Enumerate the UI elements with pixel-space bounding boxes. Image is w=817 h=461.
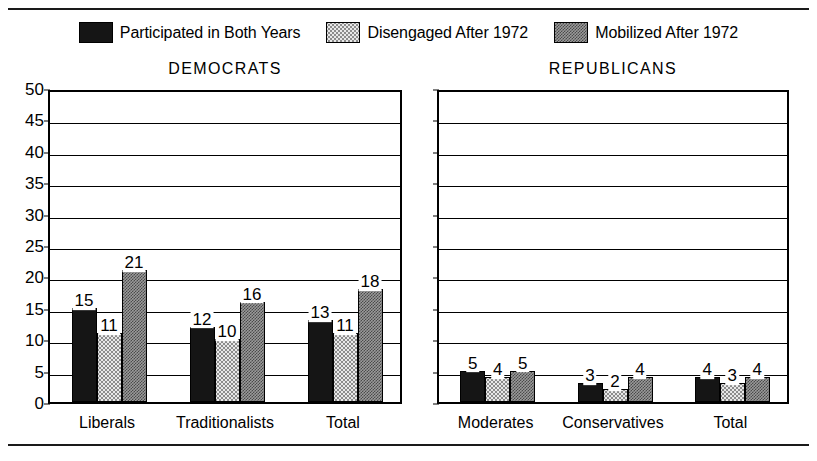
y-axis-tick-label: 20 xyxy=(10,268,44,288)
y-axis-tick-mark xyxy=(44,184,50,185)
bar xyxy=(72,308,97,402)
y-axis-tick-mark xyxy=(44,341,50,342)
y-axis-tick-label: 40 xyxy=(10,143,44,163)
bar-value-label: 12 xyxy=(191,311,214,329)
gridline xyxy=(439,218,787,219)
gridline xyxy=(50,280,400,281)
legend-swatch-mobilized xyxy=(554,22,588,43)
y-axis-tick-mark xyxy=(44,90,50,91)
y-axis-tick-mark xyxy=(433,278,439,279)
top-divider-rule xyxy=(8,8,809,10)
y-axis-tick-mark xyxy=(44,215,50,216)
bar-value-label: 10 xyxy=(216,323,239,341)
y-axis-tick-mark xyxy=(433,372,439,373)
panel-democrats: DEMOCRATS1511211210161311180510152025303… xyxy=(8,60,402,434)
bar xyxy=(628,377,653,402)
bar xyxy=(190,327,215,402)
bottom-divider-rule xyxy=(8,444,809,446)
y-axis-tick-label: 15 xyxy=(10,300,44,320)
y-axis-tick-mark xyxy=(433,404,439,405)
bar-value-label: 15 xyxy=(73,292,96,310)
bar-value-label: 18 xyxy=(359,273,382,291)
y-axis-tick-label: 0 xyxy=(10,394,44,414)
plot-area: 545324434 xyxy=(437,90,789,404)
panel-title: DEMOCRATS xyxy=(48,60,402,78)
bar-value-label: 16 xyxy=(241,286,264,304)
y-axis-tick-mark xyxy=(433,184,439,185)
x-axis-category-label: Moderates xyxy=(458,414,534,432)
y-axis-tick-label: 10 xyxy=(10,331,44,351)
y-axis-tick-mark xyxy=(44,121,50,122)
gridline xyxy=(50,218,400,219)
gridline xyxy=(439,123,787,124)
gridline xyxy=(50,186,400,187)
bar xyxy=(358,289,383,402)
y-axis-tick-mark xyxy=(44,404,50,405)
legend-item: Disengaged After 1972 xyxy=(326,22,528,43)
gridline xyxy=(439,280,787,281)
bar xyxy=(460,371,485,402)
bar xyxy=(695,377,720,402)
gridline xyxy=(439,343,787,344)
bar xyxy=(510,371,535,402)
x-axis-category-label: Total xyxy=(713,414,747,432)
x-axis-category-label: Traditionalists xyxy=(176,414,274,432)
bar-value-label: 2 xyxy=(608,374,621,392)
bar-value-label: 21 xyxy=(123,254,146,272)
bar xyxy=(485,377,510,402)
y-axis-tick-label: 35 xyxy=(10,174,44,194)
bar xyxy=(215,339,240,402)
y-axis-tick-mark xyxy=(44,372,50,373)
x-axis-category-label: Conservatives xyxy=(562,414,663,432)
gridline xyxy=(439,155,787,156)
gridline xyxy=(50,312,400,313)
bar-value-label: 5 xyxy=(516,355,529,373)
gridline xyxy=(439,186,787,187)
bar xyxy=(97,333,122,402)
bar-value-label: 4 xyxy=(701,361,714,379)
panel-republicans: REPUBLICANS545324434ModeratesConservativ… xyxy=(425,60,789,434)
legend-item-label: Participated in Both Years xyxy=(120,24,301,42)
y-axis-tick-mark xyxy=(44,152,50,153)
bar xyxy=(308,320,333,402)
y-axis-tick-label: 5 xyxy=(10,363,44,383)
bar-value-label: 11 xyxy=(334,317,356,335)
chart-legend: Participated in Both YearsDisengaged Aft… xyxy=(0,22,817,43)
y-axis-tick-mark xyxy=(433,215,439,216)
legend-item: Mobilized After 1972 xyxy=(554,22,738,43)
bar-value-label: 4 xyxy=(751,361,764,379)
y-axis-tick-mark xyxy=(44,278,50,279)
y-axis-tick-label: 25 xyxy=(10,237,44,257)
legend-item: Participated in Both Years xyxy=(79,22,301,43)
gridline xyxy=(50,123,400,124)
y-axis-tick-mark xyxy=(433,309,439,310)
legend-item-label: Disengaged After 1972 xyxy=(367,24,528,42)
bar-value-label: 3 xyxy=(583,367,596,385)
legend-swatch-participated xyxy=(79,22,113,43)
bar-value-label: 3 xyxy=(726,367,739,385)
gridline xyxy=(439,249,787,250)
y-axis-tick-mark xyxy=(433,247,439,248)
bar-value-label: 5 xyxy=(466,355,479,373)
y-axis-tick-label: 30 xyxy=(10,206,44,226)
bar-value-label: 13 xyxy=(309,305,332,323)
bar-value-label: 4 xyxy=(633,361,646,379)
y-axis-tick-mark xyxy=(433,90,439,91)
bar xyxy=(578,383,603,402)
bar xyxy=(745,377,770,402)
gridline xyxy=(50,249,400,250)
y-axis-tick-label: 45 xyxy=(10,111,44,131)
y-axis-tick-mark xyxy=(44,309,50,310)
legend-swatch-disengaged xyxy=(326,22,360,43)
x-axis-category-label: Total xyxy=(326,414,360,432)
y-axis-tick-mark xyxy=(433,121,439,122)
y-axis-tick-label: 50 xyxy=(10,80,44,100)
bar-value-label: 11 xyxy=(98,317,120,335)
y-axis-tick-mark xyxy=(44,247,50,248)
y-axis-tick-mark xyxy=(433,341,439,342)
bar xyxy=(240,302,265,402)
x-axis-category-label: Liberals xyxy=(79,414,135,432)
bar-value-label: 4 xyxy=(491,361,504,379)
panel-title: REPUBLICANS xyxy=(437,60,789,78)
plot-area: 151121121016131118 xyxy=(48,90,402,404)
